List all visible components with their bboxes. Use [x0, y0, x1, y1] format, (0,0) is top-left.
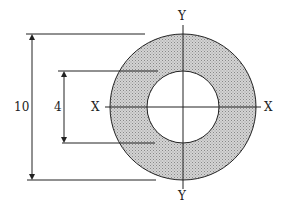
y-axis-label-bottom: Y — [177, 189, 187, 203]
x-axis-label-right: X — [264, 100, 273, 114]
inner-diameter-label: 4 — [54, 100, 62, 114]
diagram-canvas: 10 4 X X Y Y — [0, 0, 287, 207]
axes — [105, 25, 261, 189]
outer-diameter-label: 10 — [14, 100, 29, 114]
x-axis-label-left: X — [91, 100, 100, 114]
y-axis-label-top: Y — [177, 9, 187, 23]
cross-section-diagram: 10 4 X X Y Y — [0, 0, 287, 207]
